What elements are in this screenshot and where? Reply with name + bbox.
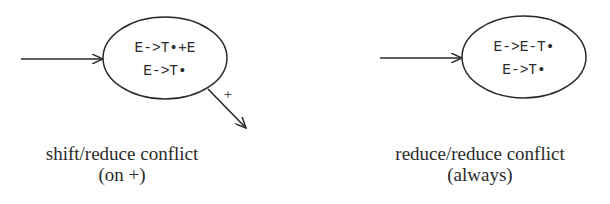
caption-subtitle: (on +)	[98, 164, 145, 186]
caption-subtitle: (always)	[447, 164, 512, 186]
reduce-reduce-diagram: E->E-T• E->T• reduce/reduce conflict (al…	[380, 16, 586, 186]
edge-label: +	[224, 86, 232, 102]
lr-state-node	[462, 16, 586, 98]
conflict-diagram: E->T•+E E->T• + shift/reduce conflict (o…	[0, 0, 610, 204]
state-item: E->T•+E	[135, 40, 196, 56]
caption-title: shift/reduce conflict	[46, 143, 199, 164]
state-item: E->T•	[502, 62, 546, 78]
state-item: E->E-T•	[494, 39, 555, 55]
lr-state-node	[103, 17, 227, 99]
shift-reduce-diagram: E->T•+E E->T• + shift/reduce conflict (o…	[21, 17, 246, 186]
state-item: E->T•	[143, 63, 187, 79]
caption-title: reduce/reduce conflict	[395, 143, 565, 164]
